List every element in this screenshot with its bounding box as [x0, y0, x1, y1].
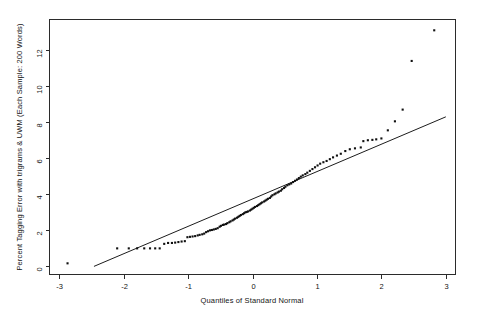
- data-point: [275, 192, 277, 194]
- data-point: [267, 198, 269, 200]
- data-point: [402, 109, 404, 111]
- data-point: [286, 184, 288, 186]
- data-point: [199, 234, 201, 236]
- x-axis-ticks: [60, 275, 447, 279]
- data-point: [317, 164, 319, 166]
- x-tick-label: 0: [251, 282, 255, 291]
- data-point: [171, 242, 173, 244]
- data-point: [211, 229, 213, 231]
- data-point: [298, 177, 300, 179]
- data-point: [340, 153, 342, 155]
- data-point: [294, 180, 296, 182]
- data-point: [192, 235, 194, 237]
- y-tick-label: 0: [35, 267, 44, 271]
- data-point: [371, 139, 373, 141]
- data-point: [184, 240, 186, 242]
- data-point: [309, 170, 311, 172]
- data-point: [302, 174, 304, 176]
- data-point: [116, 247, 118, 249]
- data-point: [209, 229, 211, 231]
- data-point: [278, 191, 280, 193]
- data-point: [394, 120, 396, 122]
- data-point: [223, 224, 225, 226]
- data-point: [186, 236, 188, 238]
- data-point: [149, 247, 151, 249]
- data-point: [159, 247, 161, 249]
- data-point: [292, 181, 294, 183]
- y-axis-tick-labels: 024681012: [35, 49, 44, 271]
- data-point: [230, 220, 232, 222]
- y-tick-label: 2: [35, 231, 44, 235]
- y-tick-label: 12: [35, 49, 44, 57]
- data-point: [205, 231, 207, 233]
- reference-line: [94, 117, 446, 267]
- data-point: [375, 138, 377, 140]
- data-point: [332, 156, 334, 158]
- data-point: [163, 243, 165, 245]
- data-point: [261, 201, 263, 203]
- data-point: [213, 228, 215, 230]
- data-point: [290, 182, 292, 184]
- x-tick-label: -3: [56, 282, 63, 291]
- scatter-points: [66, 29, 435, 264]
- data-point: [306, 172, 308, 174]
- data-point: [288, 183, 290, 185]
- data-point: [304, 173, 306, 175]
- data-point: [189, 236, 191, 238]
- y-axis-ticks: [46, 51, 50, 267]
- data-point: [411, 60, 413, 62]
- data-point: [66, 262, 68, 264]
- data-point: [217, 227, 219, 229]
- x-axis-tick-labels: -3-2-10123: [56, 282, 448, 291]
- data-point: [362, 140, 364, 142]
- y-tick-label: 8: [35, 123, 44, 127]
- plot-frame: [50, 20, 456, 275]
- data-point: [203, 233, 205, 235]
- data-point: [234, 218, 236, 220]
- data-point: [433, 29, 435, 31]
- data-point: [314, 166, 316, 168]
- data-point: [128, 247, 130, 249]
- x-tick-label: -2: [121, 282, 128, 291]
- data-point: [136, 247, 138, 249]
- data-point: [354, 147, 356, 149]
- data-point: [344, 150, 346, 152]
- data-point: [336, 155, 338, 157]
- data-point: [271, 194, 273, 196]
- data-point: [367, 139, 369, 141]
- x-tick-label: 3: [444, 282, 448, 291]
- data-point: [300, 176, 302, 178]
- data-point: [322, 161, 324, 163]
- data-point: [197, 234, 199, 236]
- data-point: [296, 178, 298, 180]
- data-point: [380, 137, 382, 139]
- data-point: [154, 247, 156, 249]
- x-tick-label: 2: [379, 282, 383, 291]
- data-point: [215, 228, 217, 230]
- data-point: [207, 230, 209, 232]
- data-point: [181, 240, 183, 242]
- data-point: [360, 146, 362, 148]
- data-point: [329, 158, 331, 160]
- data-point: [247, 210, 249, 212]
- data-point: [254, 206, 256, 208]
- data-point: [240, 214, 242, 216]
- y-tick-label: 4: [35, 195, 44, 199]
- data-point: [177, 241, 179, 243]
- data-point: [311, 168, 313, 170]
- x-tick-label: -1: [185, 282, 192, 291]
- data-point: [143, 247, 145, 249]
- y-tick-label: 6: [35, 159, 44, 163]
- x-axis-label: Quantiles of Standard Normal: [201, 296, 304, 305]
- data-point: [220, 225, 222, 227]
- data-point: [194, 235, 196, 237]
- data-point: [281, 188, 283, 190]
- data-point: [167, 242, 169, 244]
- qq-plot-canvas: -3-2-10123 024681012 Quantiles of Standa…: [0, 0, 477, 321]
- data-point: [201, 233, 203, 235]
- data-point: [326, 160, 328, 162]
- y-tick-label: 10: [35, 85, 44, 93]
- data-point: [387, 129, 389, 131]
- data-point: [284, 186, 286, 188]
- qq-plot-figure: -3-2-10123 024681012 Quantiles of Standa…: [0, 0, 477, 321]
